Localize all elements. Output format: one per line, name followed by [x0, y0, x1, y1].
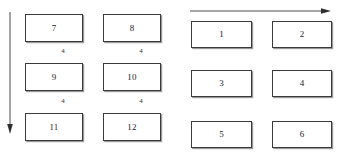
- block-label: 2: [300, 30, 305, 39]
- block-node[interactable]: 7: [25, 14, 83, 42]
- block-node[interactable]: 6: [272, 121, 332, 148]
- block-node[interactable]: 9: [25, 63, 83, 91]
- block-label: 4: [300, 79, 305, 88]
- block-node[interactable]: 11: [25, 113, 83, 141]
- block-node[interactable]: 5: [191, 121, 252, 148]
- diagram-canvas: 7 8 9 10 11 12 4 4 4 4 1: [0, 0, 344, 161]
- block-label: 3: [219, 79, 224, 88]
- block-label: 6: [300, 130, 305, 139]
- gap-label: 4: [139, 48, 143, 55]
- block-node[interactable]: 4: [272, 70, 332, 97]
- gap-label: 4: [139, 98, 143, 105]
- block-node[interactable]: 12: [103, 113, 161, 141]
- block-label: 8: [130, 24, 135, 33]
- block-label: 1: [219, 30, 224, 39]
- down-arrow-left: [4, 12, 16, 142]
- block-node[interactable]: 1: [191, 21, 252, 48]
- block-label: 9: [52, 73, 57, 82]
- block-label: 7: [52, 24, 57, 33]
- right-arrow-top: [190, 5, 339, 17]
- block-node[interactable]: 2: [272, 21, 332, 48]
- block-node[interactable]: 3: [191, 70, 252, 97]
- block-label: 11: [49, 123, 58, 132]
- block-label: 12: [127, 123, 136, 132]
- block-label: 5: [219, 130, 224, 139]
- block-node[interactable]: 8: [103, 14, 161, 42]
- block-node[interactable]: 10: [103, 63, 161, 91]
- block-label: 10: [127, 73, 136, 82]
- gap-label: 4: [61, 48, 65, 55]
- gap-label: 4: [61, 98, 65, 105]
